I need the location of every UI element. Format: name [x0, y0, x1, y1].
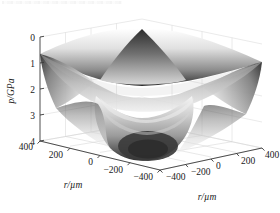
y-tick-200: 200: [241, 156, 256, 166]
x-axis-label: r/µm: [64, 180, 83, 190]
x-tick-neg400: −400: [133, 172, 153, 182]
y-axis-label: r/µm: [198, 192, 217, 202]
x-tick-neg200: −200: [103, 165, 123, 175]
y-tick-neg200: −200: [191, 167, 211, 177]
surface-plot-figure: 0 1 2 3 4 p/GPa 400 200 0 −200 −400 r/µm…: [0, 0, 280, 213]
z-tick-0: 0: [30, 33, 35, 43]
y-tick-neg400: −400: [166, 172, 186, 182]
z-tick-1: 1: [30, 59, 35, 69]
x-tick-0: 0: [88, 157, 93, 167]
z-axis-label: p/GPa: [6, 78, 16, 104]
z-tick-3: 3: [30, 111, 35, 121]
y-tick-0: 0: [216, 161, 221, 171]
x-tick-200: 200: [49, 150, 64, 160]
y-tick-400: 400: [265, 150, 280, 160]
x-tick-400: 400: [19, 142, 34, 152]
z-axis-ticks: 0 1 2 3 4: [30, 33, 44, 147]
z-tick-2: 2: [30, 85, 35, 95]
